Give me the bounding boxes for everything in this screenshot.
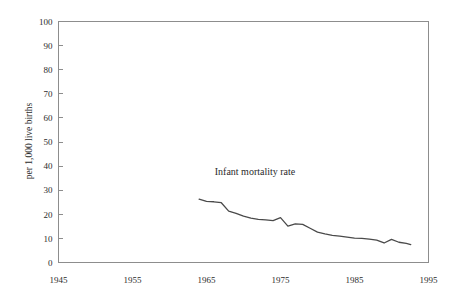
y-tick-label: 70 <box>44 89 54 99</box>
infant-mortality-line-chart: 0102030405060708090100 19451955196519751… <box>0 0 457 302</box>
plot-frame <box>59 22 429 263</box>
chart-figure: 0102030405060708090100 19451955196519751… <box>0 0 457 302</box>
y-tick-label: 20 <box>44 210 54 220</box>
y-tick-label: 90 <box>44 41 54 51</box>
series-infant-mortality-rate <box>199 199 411 245</box>
x-tick-label: 1965 <box>198 275 217 285</box>
y-tick-label: 10 <box>44 234 54 244</box>
y-axis-title: per 1,000 live births <box>24 102 34 179</box>
series-annotation-label: Infant mortality rate <box>215 166 296 177</box>
y-axis-ticks <box>59 22 63 263</box>
y-tick-label: 60 <box>44 113 54 123</box>
y-tick-label: 80 <box>44 65 54 75</box>
y-tick-label: 30 <box>44 185 54 195</box>
y-tick-label: 0 <box>48 258 53 268</box>
y-tick-label: 50 <box>44 137 54 147</box>
y-tick-label: 100 <box>39 17 53 27</box>
x-axis-tick-labels: 194519551965197519851995 <box>50 275 439 285</box>
x-tick-label: 1945 <box>50 275 69 285</box>
y-axis-tick-labels: 0102030405060708090100 <box>39 17 53 268</box>
x-tick-label: 1995 <box>420 275 439 285</box>
x-tick-label: 1955 <box>124 275 143 285</box>
x-tick-label: 1985 <box>346 275 365 285</box>
y-tick-label: 40 <box>44 161 54 171</box>
x-tick-label: 1975 <box>272 275 291 285</box>
